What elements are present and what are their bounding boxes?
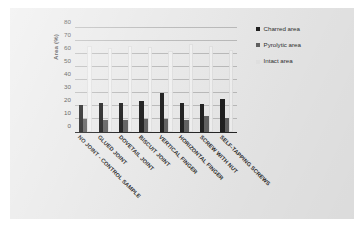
y-axis-tick-label: 80 [64, 19, 71, 25]
y-axis-tick-label: 70 [64, 32, 71, 38]
y-axis-tick-label: 30 [64, 84, 71, 90]
legend-swatch-icon [256, 27, 260, 31]
bar-group [176, 28, 196, 132]
legend-item: Charred area [256, 26, 301, 32]
x-axis-labels: NO JOINT - CONTROL SAMPLEGLUED JOINTDOVE… [75, 134, 237, 218]
bar-intact [229, 50, 233, 132]
x-axis-tick-label: SCREW WITH NUT [198, 134, 238, 174]
bar-group [95, 28, 115, 132]
y-axis-tick-label: 20 [64, 97, 71, 103]
bar-group [136, 28, 156, 132]
bar-intact [108, 48, 112, 133]
chart-screenshot: Area (%) 01020304050607080 NO JOINT - CO… [0, 0, 363, 227]
legend-item: Pyrolytic area [256, 42, 301, 48]
bar-group [116, 28, 136, 132]
y-axis-tick-label: 10 [64, 110, 71, 116]
chart-legend: Charred areaPyrolytic areaIntact area [256, 26, 301, 65]
bar-intact [128, 46, 132, 132]
bar-series-container [75, 28, 237, 132]
x-axis-tick-label: DOVETAIL JOINT [117, 134, 155, 172]
plot-area: 01020304050607080 [75, 28, 237, 132]
bar-group [156, 28, 176, 132]
legend-item-label: Pyrolytic area [264, 42, 301, 48]
x-axis-tick-label: VERTICAL FINGER [158, 134, 199, 175]
x-axis-line [75, 132, 237, 134]
legend-swatch-icon [256, 60, 260, 64]
legend-item-label: Charred area [264, 26, 300, 32]
legend-item: Intact area [256, 58, 301, 64]
bar-intact [209, 46, 213, 132]
y-axis-tick-label: 0 [68, 123, 71, 129]
chart-panel: Area (%) 01020304050607080 NO JOINT - CO… [10, 8, 354, 219]
y-axis-tick-label: 60 [64, 45, 71, 51]
legend-swatch-icon [256, 43, 260, 47]
bar-group [217, 28, 237, 132]
bar-group [75, 28, 95, 132]
bar-intact [189, 44, 193, 132]
bar-group [197, 28, 217, 132]
bar-intact [168, 51, 172, 132]
y-axis-tick-label: 40 [64, 71, 71, 77]
y-axis-title: Area (%) [52, 34, 59, 60]
y-axis-tick-label: 50 [64, 58, 71, 64]
legend-item-label: Intact area [264, 58, 293, 64]
bar-intact [87, 46, 91, 132]
bar-intact [148, 47, 152, 132]
